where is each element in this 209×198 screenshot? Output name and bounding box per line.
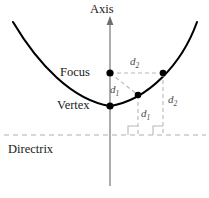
d2-upper-subscript: 2 (136, 61, 140, 70)
right-angle-marker-near-icon (128, 126, 138, 135)
focus-label: Focus (60, 66, 90, 79)
axis-arrowhead-icon (107, 16, 114, 25)
distance-label-d1-upper: d1 (110, 84, 119, 98)
near-point-marker (135, 92, 142, 99)
d1-upper-subscript: 1 (116, 89, 120, 98)
distance-label-d1-lower: d1 (141, 108, 150, 122)
vertex-label: Vertex (57, 99, 90, 112)
parabola-diagram: Axis Focus Vertex Directrix d2 d1 d1 d2 (0, 0, 209, 198)
directrix-label: Directrix (8, 143, 53, 156)
far-point-marker (160, 70, 167, 77)
vertex-point-marker (106, 102, 113, 109)
axis-label: Axis (90, 3, 114, 16)
right-angle-marker-far-icon (153, 126, 163, 135)
axis-of-symmetry (107, 16, 114, 186)
diagram-canvas (0, 0, 209, 198)
d2-lower-subscript: 2 (174, 99, 178, 108)
distance-label-d2-lower: d2 (168, 94, 177, 108)
distance-label-d2-upper: d2 (130, 56, 139, 70)
d1-lower-subscript: 1 (147, 113, 151, 122)
focus-point-marker (106, 69, 113, 76)
